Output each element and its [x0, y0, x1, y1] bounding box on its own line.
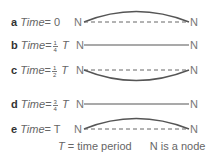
row-label-c: c Time=12T [11, 64, 68, 78]
period-symbol: T [61, 64, 68, 76]
fraction: 12 [52, 65, 57, 78]
legend-T-definition: = time period [68, 140, 132, 152]
wave-a [84, 12, 189, 23]
equals-sign: = [45, 39, 51, 51]
time-word: Time [20, 123, 44, 135]
node-right-a: N [190, 16, 198, 28]
legend-T-symbol: T [58, 140, 65, 152]
legend-N-definition: N is a node [150, 140, 206, 152]
row-letter: b [11, 39, 18, 51]
period-symbol: T [62, 98, 69, 110]
time-word: Time [21, 98, 45, 110]
row-label-a: a Time= 0 [11, 16, 60, 28]
equals-sign: = [45, 98, 51, 110]
time-word: Time [20, 16, 44, 28]
time-word: Time [20, 64, 44, 76]
time-value: = 0 [45, 16, 61, 28]
fraction: 34 [53, 99, 58, 112]
node-left-b: N [76, 39, 84, 51]
equals-sign: = [45, 64, 51, 76]
row-letter: d [11, 98, 18, 110]
node-left-c: N [76, 64, 84, 76]
node-right-c: N [190, 64, 198, 76]
period-symbol: T [62, 39, 69, 51]
row-label-e: e Time= T [11, 123, 61, 135]
row-label-b: b Time=14T [11, 39, 69, 53]
wave-e [84, 119, 189, 130]
node-right-b: N [190, 39, 198, 51]
time-value: = T [45, 123, 61, 135]
row-letter: e [11, 123, 17, 135]
node-left-e: N [74, 123, 82, 135]
time-word: Time [21, 39, 45, 51]
node-right-e: N [190, 123, 198, 135]
wave-c [84, 70, 189, 81]
node-right-d: N [190, 98, 198, 110]
row-letter: a [11, 16, 17, 28]
node-left-d: N [76, 98, 84, 110]
row-letter: c [11, 64, 17, 76]
row-label-d: d Time=34T [11, 98, 69, 112]
legend-caption: T = time period N is a node [58, 140, 205, 152]
fraction: 14 [53, 40, 58, 53]
node-left-a: N [74, 16, 82, 28]
